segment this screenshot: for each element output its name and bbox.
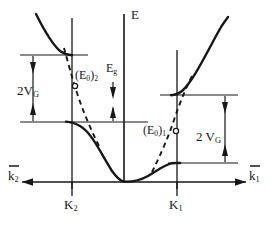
bandgap-label-sub: g — [113, 67, 117, 76]
free-electron-parabola-left — [64, 48, 100, 148]
e0-label-right: (E0)1 — [143, 124, 166, 137]
gap-measure-arrow-right — [222, 96, 228, 162]
tick-label-K1-text: K — [169, 197, 178, 212]
e0-label-right-open: (E — [143, 123, 154, 137]
upper-band-right-branch — [171, 17, 228, 95]
tick-label-K2: K2 — [64, 198, 78, 213]
k-axis-label-right-sub: 1 — [256, 175, 260, 184]
e0-left-marker — [72, 83, 77, 88]
gap-label-left: 2VG — [17, 84, 39, 99]
upper-band-left-branch — [36, 14, 72, 55]
tick-label-K2-sub: 2 — [73, 204, 77, 213]
e0-label-left-sub: 2 — [94, 74, 98, 83]
tick-label-K1-sub: 1 — [178, 204, 182, 213]
k1-arrowhead — [235, 178, 246, 186]
gap-label-right-text: 2 V — [196, 129, 215, 144]
tick-label-K2-text: K — [64, 197, 73, 212]
band-structure-figure: E Eg 2VG 2 VG (E0)2 (E0)1 K2 K1 k2 k1 — [0, 0, 273, 230]
gap-label-left-sub: G — [33, 90, 39, 99]
bandgap-measure-arrow — [110, 82, 116, 121]
k-axis-label-left: k2 — [8, 169, 19, 184]
tick-label-K1: K1 — [169, 198, 183, 213]
e0-label-left-open: (E — [75, 68, 86, 82]
gap-label-right-sub: G — [215, 136, 221, 145]
k2-arrowhead — [22, 178, 33, 186]
k-axis-label-left-sub: 2 — [15, 175, 19, 184]
bandgap-label: Eg — [106, 62, 117, 75]
e0-label-right-sub: 1 — [162, 129, 166, 138]
e0-right-marker — [173, 128, 178, 133]
energy-axis-label: E — [131, 8, 139, 21]
e0-label-left: (E0)2 — [75, 69, 98, 82]
gap-label-right: 2 VG — [196, 130, 221, 145]
gap-label-left-text: 2V — [17, 83, 33, 98]
k-axis-label-right: k1 — [249, 169, 260, 184]
figure-canvas — [0, 0, 273, 230]
